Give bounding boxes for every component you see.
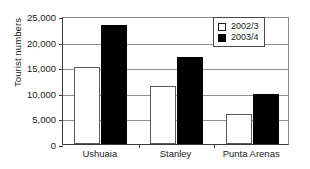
y-axis-tick-mark [59, 146, 63, 147]
y-axis-tick-label: 15,000 [16, 63, 56, 74]
legend-label: 2002/3 [231, 21, 259, 32]
y-axis-tick-label: 25,000 [16, 12, 56, 23]
y-axis-tick-mark [59, 18, 63, 19]
y-axis-tick-label: 20,000 [16, 37, 56, 48]
y-axis-tick-label: 10,000 [16, 88, 56, 99]
x-axis-tick-label: Ushuaia [82, 148, 117, 159]
x-axis-tick-labels: UshuaiaStanleyPunta Arenas [62, 148, 289, 166]
y-axis-tick-mark [59, 69, 63, 70]
x-axis-tick-label: Stanley [160, 148, 192, 159]
x-axis-tick-label: Punta Arenas [223, 148, 280, 159]
legend-swatch-filled-icon [218, 34, 226, 42]
y-axis-tick-label: 0 [16, 140, 56, 151]
bar [177, 57, 203, 144]
legend-item: 2002/3 [218, 21, 259, 32]
legend-item: 2003/4 [218, 32, 259, 43]
legend-label: 2003/4 [231, 32, 259, 43]
chart-legend: 2002/3 2003/4 [213, 17, 265, 47]
y-axis-tick-mark [59, 44, 63, 45]
y-axis-tick-label: 5,000 [16, 114, 56, 125]
y-axis-tick-labels: 05,00010,00015,00020,00025,000 [16, 17, 56, 145]
bar [253, 94, 279, 144]
bar [101, 25, 127, 144]
bar [150, 86, 176, 144]
y-axis-tick-mark [59, 120, 63, 121]
bar [226, 114, 252, 144]
y-axis-tick-mark [59, 95, 63, 96]
legend-swatch-open-icon [218, 23, 226, 31]
bar-chart: Tourist numbers 05,00010,00015,00020,000… [0, 0, 310, 169]
bar [74, 67, 100, 144]
